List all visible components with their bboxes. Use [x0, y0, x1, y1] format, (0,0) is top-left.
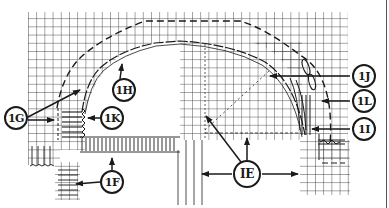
callout-1i: 1I [352, 117, 376, 141]
callout-1g: 1G [4, 106, 28, 130]
callout-1h: 1H [112, 78, 136, 102]
callout-1f: 1F [100, 170, 124, 194]
callout-1l: 1L [352, 89, 376, 113]
callout-1e: IE [233, 160, 261, 188]
diagram-canvas [0, 0, 389, 208]
callout-1j: 1J [352, 64, 376, 88]
callout-1k: 1K [100, 106, 124, 130]
frame-border [386, 0, 387, 208]
